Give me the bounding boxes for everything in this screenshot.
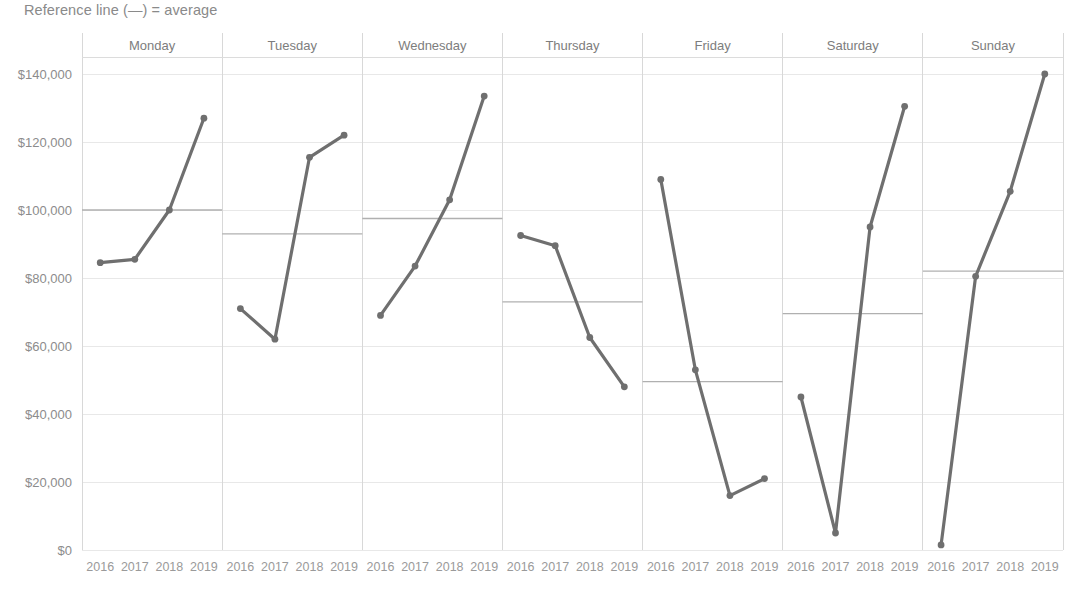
x-tick-label: 2016 (226, 560, 254, 574)
series-line-saturday (801, 106, 905, 533)
x-tick-label: 2016 (927, 560, 955, 574)
x-tick-label: 2018 (155, 560, 183, 574)
x-tick-label: 2019 (751, 560, 779, 574)
x-axis-labels-group: 2016201720182019201620172018201920162017… (86, 560, 1058, 574)
y-axis-labels-group: $140,000$120,000$100,000$80,000$60,000$4… (18, 67, 72, 558)
data-point (201, 115, 208, 122)
data-point (938, 542, 945, 549)
series-line-sunday (941, 74, 1045, 545)
data-point (621, 383, 628, 390)
series-line-tuesday (240, 135, 344, 339)
y-tick-label: $20,000 (25, 475, 72, 490)
y-tick-label: $60,000 (25, 339, 72, 354)
gridlines-group (82, 74, 1063, 550)
data-point (412, 263, 419, 270)
series-line-thursday (521, 236, 625, 387)
x-tick-label: 2019 (610, 560, 638, 574)
x-tick-label: 2016 (647, 560, 675, 574)
plot-svg: $140,000$120,000$100,000$80,000$60,000$4… (0, 0, 1075, 601)
y-tick-label: $120,000 (18, 135, 72, 150)
data-point (166, 207, 173, 214)
x-tick-label: 2019 (1031, 560, 1059, 574)
data-point (1007, 188, 1014, 195)
data-point (131, 256, 138, 263)
x-tick-label: 2018 (576, 560, 604, 574)
panel-title-tuesday: Tuesday (268, 38, 318, 53)
x-tick-label: 2017 (962, 560, 990, 574)
data-point (446, 196, 453, 203)
series-line-wednesday (381, 96, 485, 315)
data-point (481, 93, 488, 100)
series-line-monday (100, 118, 204, 263)
reference-line-caption: Reference line (—) = average (24, 2, 217, 18)
x-tick-label: 2018 (856, 560, 884, 574)
x-tick-label: 2016 (367, 560, 395, 574)
y-tick-label: $40,000 (25, 407, 72, 422)
x-tick-label: 2018 (296, 560, 324, 574)
x-tick-label: 2018 (996, 560, 1024, 574)
panel-title-thursday: Thursday (545, 38, 600, 53)
x-tick-label: 2017 (541, 560, 569, 574)
y-tick-label: $0 (58, 543, 72, 558)
x-tick-label: 2018 (436, 560, 464, 574)
data-point (692, 366, 699, 373)
data-point (306, 154, 313, 161)
panel-title-wednesday: Wednesday (398, 38, 467, 53)
data-point (552, 242, 559, 249)
data-point (867, 224, 874, 231)
data-point (727, 492, 734, 499)
x-tick-label: 2017 (401, 560, 429, 574)
data-point (272, 336, 279, 343)
data-point (1041, 71, 1048, 78)
x-tick-label: 2016 (86, 560, 114, 574)
y-tick-label: $80,000 (25, 271, 72, 286)
x-tick-label: 2017 (261, 560, 289, 574)
data-point (657, 176, 664, 183)
x-tick-label: 2019 (891, 560, 919, 574)
panel-title-monday: Monday (129, 38, 176, 53)
data-point (972, 273, 979, 280)
x-tick-label: 2017 (822, 560, 850, 574)
data-point (237, 305, 244, 312)
x-tick-label: 2018 (716, 560, 744, 574)
data-point (901, 103, 908, 110)
small-multiples-line-chart: Reference line (—) = average $140,000$12… (0, 0, 1075, 601)
x-tick-label: 2017 (121, 560, 149, 574)
data-point (761, 475, 768, 482)
x-tick-label: 2016 (507, 560, 535, 574)
data-point (517, 232, 524, 239)
x-tick-label: 2017 (681, 560, 709, 574)
data-point (832, 530, 839, 537)
x-tick-label: 2019 (330, 560, 358, 574)
y-tick-label: $100,000 (18, 203, 72, 218)
panel-title-saturday: Saturday (827, 38, 880, 53)
data-point (798, 394, 805, 401)
series-line-friday (661, 179, 765, 495)
data-point (341, 132, 348, 139)
panel-titles-group: MondayTuesdayWednesdayThursdayFridaySatu… (129, 38, 1016, 53)
data-point (586, 334, 593, 341)
data-point (377, 312, 384, 319)
x-tick-label: 2016 (787, 560, 815, 574)
panel-title-sunday: Sunday (971, 38, 1016, 53)
x-tick-label: 2019 (470, 560, 498, 574)
x-tick-label: 2019 (190, 560, 218, 574)
y-tick-label: $140,000 (18, 67, 72, 82)
panel-title-friday: Friday (695, 38, 732, 53)
data-point (97, 259, 104, 266)
